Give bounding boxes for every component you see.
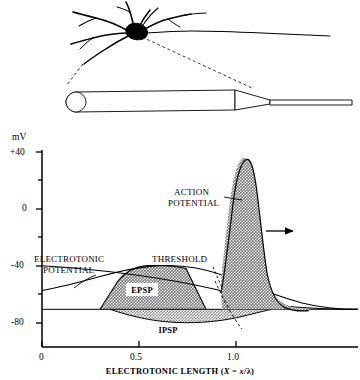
- axon: [270, 100, 352, 105]
- threshold-leader-line: [213, 267, 222, 288]
- x-tick-label-0point5: 0.5: [130, 352, 142, 362]
- y-axis-unit-label: mV: [12, 132, 26, 142]
- neuron-soma-and-cable-diagram: [66, 2, 352, 112]
- threshold-label: THRESHOLD: [152, 254, 208, 264]
- y-tick-label-0: 0: [22, 203, 27, 213]
- dendrite-branches: [71, 2, 330, 64]
- epsp-label: EPSP: [131, 285, 153, 295]
- cable-open-end-ellipse: [66, 92, 86, 112]
- y-tick-label-plus40: +40: [10, 147, 25, 157]
- epsp-label-group: EPSP: [126, 283, 158, 296]
- electrotonic-potential-label-line1: ELECTROTONIC: [34, 254, 104, 264]
- x-tick-label-0: 0: [39, 352, 44, 362]
- action-potential-label-line2: POTENTIAL: [168, 198, 219, 208]
- electrotonic-potential-leader-line: [74, 275, 96, 288]
- y-axis-ticks: [36, 152, 42, 323]
- axon-taper: [235, 90, 270, 110]
- y-tick-label-minus80: -80: [11, 317, 24, 327]
- electrotonic-potential-label-line2: POTENTIAL: [43, 265, 94, 275]
- dendrite-cable: [66, 90, 235, 112]
- soma-to-cable-leader-lines: [66, 37, 252, 88]
- y-tick-label-minus40: -40: [11, 260, 24, 270]
- x-axis-title: ELECTROTONIC LENGTH (X = x/λ): [106, 366, 254, 376]
- soma: [126, 23, 148, 40]
- x-axis-ticks: [42, 341, 236, 347]
- action-potential-label-line1: ACTION: [174, 187, 209, 197]
- x-tick-label-1point0: 1.0: [227, 352, 239, 362]
- potential-plot: mV +40 0 -40 -80: [10, 132, 358, 376]
- neuron-electrotonic-figure: mV +40 0 -40 -80: [0, 0, 360, 380]
- ipsp-label: IPSP: [158, 325, 177, 335]
- figure-root: mV +40 0 -40 -80: [0, 0, 360, 380]
